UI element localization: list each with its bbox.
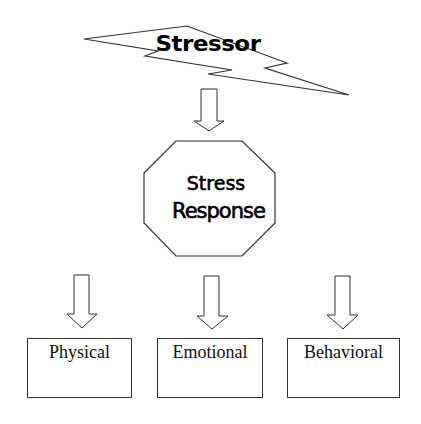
outcome-box-behavioral: Behavioral [287, 338, 400, 398]
arrow-down-icon [327, 276, 358, 329]
stressor-label: Stressor [150, 31, 266, 56]
response-label-line2: Response [172, 199, 258, 223]
outcome-label: Emotional [158, 342, 262, 363]
stress-diagram: Stressor Stress Response Physical Emotio… [0, 0, 421, 424]
outcome-box-physical: Physical [27, 338, 132, 398]
arrow-down-icon [67, 275, 97, 328]
arrow-down-icon [197, 276, 228, 329]
outcome-label: Behavioral [288, 342, 399, 363]
outcome-box-emotional: Emotional [157, 338, 263, 398]
arrow-down-icon [194, 89, 224, 131]
response-label-line1: Stress [180, 172, 252, 194]
outcome-label: Physical [28, 342, 131, 363]
